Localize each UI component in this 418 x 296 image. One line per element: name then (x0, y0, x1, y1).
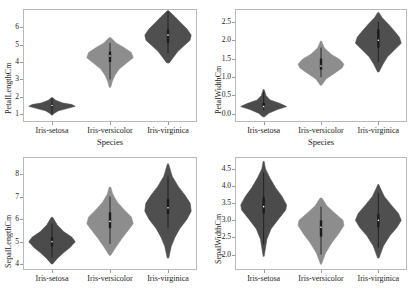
y-tick-label: 2.0 (209, 250, 231, 259)
violin-median-marker (263, 206, 265, 208)
violin-box (167, 29, 169, 42)
x-tick-mark (52, 122, 53, 125)
x-axis-label-petal-width: Species (235, 137, 407, 147)
y-tick-label: 4.5 (209, 164, 231, 173)
y-tick-label: 3.5 (209, 198, 231, 207)
y-tick-label: 2.0 (209, 35, 231, 44)
x-tick-mark (378, 122, 379, 125)
violin-median-marker (320, 65, 322, 67)
y-tick-label: 2.5 (209, 232, 231, 241)
y-tick-mark (232, 169, 235, 170)
y-tick-mark (20, 114, 23, 115)
panel-sepal-length: SepalLengthCm 45678 Iris-setosaIris-vers… (0, 148, 209, 296)
y-tick-mark (20, 242, 23, 243)
violin-median-marker (320, 226, 322, 228)
violin-box (109, 212, 111, 228)
violin-plot-figure: PetalLengthCm 123456 Iris-setosaIris-ver… (0, 0, 418, 296)
x-tick-mark (378, 270, 379, 273)
y-tick-label: 1 (0, 109, 19, 118)
violin-median-marker (378, 220, 380, 222)
y-tick-mark (20, 27, 23, 28)
violin-median-marker (167, 207, 169, 209)
y-tick-label: 8 (0, 169, 19, 178)
y-tick-label: 1.0 (209, 72, 231, 81)
violin-box (167, 199, 169, 214)
x-tick-mark (52, 270, 53, 273)
y-tick-label: 5 (0, 237, 19, 246)
x-tick-label: Iris-virginica (344, 274, 412, 283)
x-tick-mark (321, 122, 322, 125)
y-tick-mark (232, 203, 235, 204)
y-tick-label: 3 (0, 74, 19, 83)
y-tick-label: 4 (0, 57, 19, 66)
y-tick-mark (232, 114, 235, 115)
y-tick-mark (20, 97, 23, 98)
x-tick-mark (264, 122, 265, 125)
y-tick-mark (232, 40, 235, 41)
violin-median-marker (109, 221, 111, 223)
y-tick-mark (20, 79, 23, 80)
y-tick-label: 4.0 (209, 181, 231, 190)
violin-median-marker (109, 55, 111, 57)
violin-box (109, 52, 111, 62)
y-tick-label: 5 (0, 40, 19, 49)
y-tick-mark (20, 45, 23, 46)
violin-box (377, 29, 379, 47)
x-tick-mark (321, 270, 322, 273)
y-tick-label: 6 (0, 214, 19, 223)
violin-median-marker (51, 105, 53, 107)
panel-petal-length: PetalLengthCm 123456 Iris-setosaIris-ver… (0, 0, 209, 148)
violin-box (320, 220, 322, 236)
x-tick-mark (168, 270, 169, 273)
violin-median-marker (378, 39, 380, 41)
y-tick-label: 4 (0, 259, 19, 268)
x-tick-label: Iris-virginica (134, 274, 202, 283)
y-tick-mark (20, 264, 23, 265)
y-tick-label: 1.5 (209, 54, 231, 63)
panel-sepal-width: SepalWidthCm 2.02.53.03.54.04.5 Iris-set… (209, 148, 418, 296)
y-tick-mark (232, 77, 235, 78)
y-tick-label: 6 (0, 22, 19, 31)
y-tick-mark (20, 62, 23, 63)
y-tick-label: 3.0 (209, 215, 231, 224)
violin-median-marker (51, 241, 53, 243)
y-tick-mark (20, 219, 23, 220)
x-tick-mark (110, 270, 111, 273)
y-tick-mark (232, 237, 235, 238)
y-tick-mark (232, 59, 235, 60)
y-tick-mark (20, 197, 23, 198)
y-tick-mark (232, 186, 235, 187)
y-tick-label: 0.5 (209, 90, 231, 99)
violin-box (262, 197, 264, 213)
y-tick-label: 2.5 (209, 17, 231, 26)
violin-median-marker (167, 34, 169, 36)
y-tick-mark (232, 95, 235, 96)
violin-box (320, 59, 322, 70)
y-tick-label: 0.0 (209, 109, 231, 118)
x-axis-label-petal-length: Species (23, 137, 197, 147)
y-tick-label: 7 (0, 192, 19, 201)
x-tick-mark (168, 122, 169, 125)
x-tick-label: Iris-virginica (344, 126, 412, 135)
y-tick-label: 2 (0, 92, 19, 101)
violin-median-marker (263, 106, 265, 108)
panel-petal-width: PetalWidthCm 0.00.51.01.52.02.5 Iris-set… (209, 0, 418, 148)
y-tick-mark (232, 22, 235, 23)
x-tick-mark (110, 122, 111, 125)
y-tick-mark (232, 255, 235, 256)
y-tick-mark (20, 174, 23, 175)
y-tick-mark (232, 220, 235, 221)
x-tick-mark (264, 270, 265, 273)
x-tick-label: Iris-virginica (134, 126, 202, 135)
